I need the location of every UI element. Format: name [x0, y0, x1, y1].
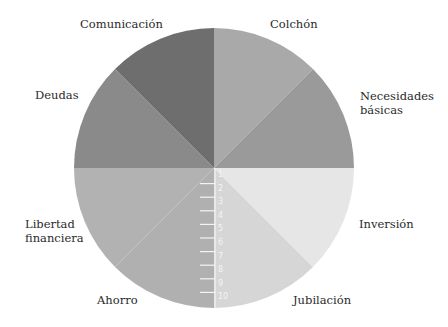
ruler-tick-label: 5 [218, 224, 223, 233]
ruler-tick-label: 8 [218, 265, 223, 274]
slice-label-comunicacion: Comunicación [80, 17, 163, 31]
slice-label-libertad-financiera: Libertad financiera [25, 217, 84, 245]
slice-label-inversion: Inversión [359, 217, 414, 231]
slice-label-necesidades-basicas: Necesidades básicas [360, 89, 434, 117]
slice-label-deudas: Deudas [35, 88, 79, 102]
pie-slices [74, 28, 354, 308]
ruler-tick-label: 6 [218, 238, 223, 247]
ruler-tick-label: 3 [218, 197, 223, 206]
ruler-tick-label: 9 [218, 279, 223, 288]
slice-label-ahorro: Ahorro [97, 293, 138, 307]
slice-label-jubilacion: Jubilación [293, 293, 351, 307]
ruler-tick-label: 10 [218, 292, 228, 301]
slice-label-colchon: Colchón [270, 17, 318, 31]
ruler-tick-label: 7 [218, 252, 223, 261]
pie-chart: 12345678910 [0, 0, 448, 327]
ruler-tick-label: 2 [218, 184, 223, 193]
ruler-tick-label: 4 [218, 211, 223, 220]
ruler-tick-label: 1 [218, 170, 223, 179]
